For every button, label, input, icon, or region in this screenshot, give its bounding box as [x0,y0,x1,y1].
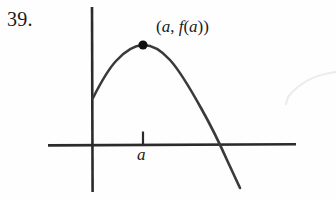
x-axis [48,144,296,145]
figure-page: 39. (a, f(a)) a [0,0,336,201]
point-label-function-arg: a [189,17,198,36]
maximum-point-marker [138,40,147,49]
x-axis-tick-label-a: a [137,145,146,165]
scan-artifact-line [286,72,336,104]
point-label-comma: , [170,17,179,36]
function-curve [93,45,240,188]
problem-number: 39. [7,7,33,31]
point-label-close-paren: ) [203,17,209,36]
y-axis [92,7,93,192]
point-label-x-var: a [162,17,171,36]
point-coordinate-label: (a, f(a)) [156,16,209,38]
